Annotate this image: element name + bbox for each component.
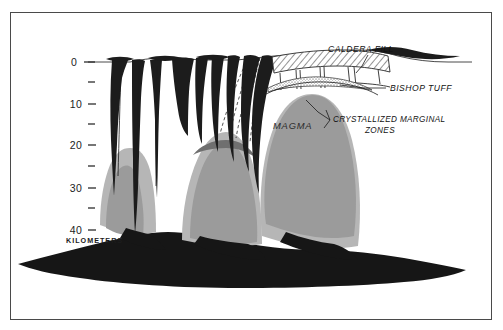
axis-tick-10: 10 [70,98,82,110]
label-caldera-fill: CALDERA FILL [328,44,394,54]
label-crystallized-marginal-zones-line2: ZONES [364,126,395,135]
label-magma: MAGMA [273,120,312,131]
axis-unit-label: KILOMETERS [66,236,123,245]
axis-tick-0: 0 [71,56,77,68]
figure-root: 0 10 20 30 40 KILOMETERS CALDERA FILL BI… [0,0,503,330]
axis-tick-30: 30 [70,182,82,194]
axis-tick-20: 20 [70,139,82,151]
label-bishop-tuff: BISHOP TUFF [390,83,452,93]
cross-section-diagram: 0 10 20 30 40 KILOMETERS CALDERA FILL BI… [0,0,503,330]
axis-tick-40: 40 [70,224,82,236]
label-crystallized-marginal-zones-line1: CRYSTALLIZED MARGINAL [333,115,445,124]
depth-axis [84,62,96,230]
bishop-tuff-unit [266,77,378,95]
